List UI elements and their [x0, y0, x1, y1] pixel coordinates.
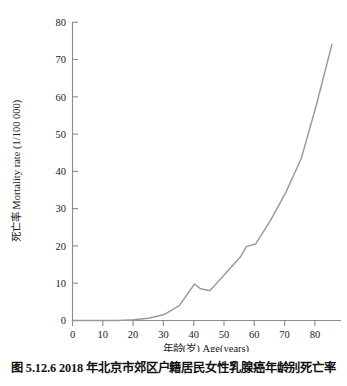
mortality-rate-series-line — [73, 45, 332, 321]
x-tick-label-30: 30 — [158, 329, 169, 340]
x-tick-label-10: 10 — [98, 329, 109, 340]
x-axis-tick-labels: 0 10 20 30 40 50 60 70 80 — [70, 329, 320, 340]
y-tick-label-40: 40 — [56, 166, 67, 177]
x-tick-label-80: 80 — [310, 329, 321, 340]
x-axis-title: 年龄(岁) Age(years) — [163, 342, 250, 352]
figure-container: 0 10 20 30 40 50 60 70 80 — [0, 0, 347, 386]
x-tick-label-0: 0 — [70, 329, 75, 340]
x-tick-label-50: 50 — [219, 329, 230, 340]
y-tick-label-30: 30 — [56, 203, 67, 214]
x-tick-label-70: 70 — [279, 329, 290, 340]
y-tick-label-70: 70 — [56, 54, 67, 65]
y-tick-label-10: 10 — [56, 278, 67, 289]
y-tick-label-0: 0 — [61, 315, 66, 326]
y-axis-title: 死亡率 Mortality rate (1/100 000) — [10, 99, 23, 242]
x-axis-ticks — [73, 321, 315, 327]
x-tick-label-40: 40 — [188, 329, 199, 340]
y-axis-tick-labels: 0 10 20 30 40 50 60 70 80 — [56, 17, 67, 326]
y-tick-label-60: 60 — [56, 92, 67, 103]
x-tick-label-60: 60 — [249, 329, 260, 340]
y-axis-ticks — [73, 22, 79, 320]
x-tick-label-20: 20 — [128, 329, 139, 340]
chart-plot-area: 0 10 20 30 40 50 60 70 80 — [0, 0, 347, 352]
y-tick-label-20: 20 — [56, 241, 67, 252]
y-tick-label-50: 50 — [56, 129, 67, 140]
figure-caption: 图 5.12.6 2018 年北京市郊区户籍居民女性乳腺癌年龄别死亡率 — [0, 358, 347, 376]
y-tick-label-80: 80 — [56, 17, 67, 28]
mortality-rate-line-chart: 0 10 20 30 40 50 60 70 80 — [0, 0, 347, 352]
